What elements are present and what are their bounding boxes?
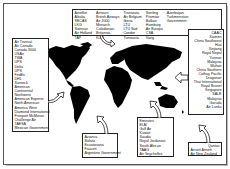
arrow-oceania-icon (197, 124, 211, 143)
asia-shape (122, 44, 182, 80)
airline-label: Air Lanka (191, 105, 222, 109)
africa-shape (104, 66, 132, 108)
airline-label: Zealand (204, 152, 217, 156)
oceania-row: Air New Zealand (191, 152, 220, 156)
north-america-airlines-box: Air Transat Air Canada Canada 3000 USAir… (12, 38, 49, 132)
south-america-airlines-box: Avianca Bolivia Ecuatoriana Faucett Arge… (82, 133, 118, 158)
oceania-airlines-box: Qantas Ansett Ansett Air New Zealand (188, 142, 222, 156)
airline-label: Argentine Government (85, 151, 116, 155)
airline-label: Tunisavia (123, 36, 141, 40)
arrow-asia-icon (175, 72, 188, 83)
airline-label: Air Holland (75, 31, 93, 35)
airline-label: Air New (191, 152, 204, 156)
north-america-shape (46, 44, 90, 80)
arrow-middle-east-icon (148, 100, 162, 118)
europe-col-4: Sterling Premiair Balkan Hamburg Air Eur… (146, 11, 163, 40)
south-america-shape (70, 86, 90, 124)
airline-label: Government (167, 19, 189, 23)
airline-label: TAP (75, 36, 93, 40)
arrow-europe-icon (100, 34, 116, 48)
asia-airlines-box: CAAC Xiamen China Southwest Hua Xinjiang… (188, 29, 224, 115)
europe-col-5: Azerbaijan Turkmenistan Government (167, 11, 189, 23)
airline-label: Mexican Government (15, 126, 47, 130)
arrow-south-america-icon (95, 115, 109, 134)
europe-col-3: Transavia Air Belgium Iberia LTU LTU Süd… (123, 11, 141, 40)
airline-label: Air Seychelles (140, 152, 172, 156)
airline-label: Varig (146, 36, 163, 40)
arrow-north-america-icon (48, 91, 66, 103)
europe-col-1: Aeroflot Alitalia SECAS LKG Swissair Air… (75, 11, 93, 40)
middle-east-airlines-box: Emirates El Al Gulf Air Kuwait Saudia Ro… (137, 117, 174, 157)
